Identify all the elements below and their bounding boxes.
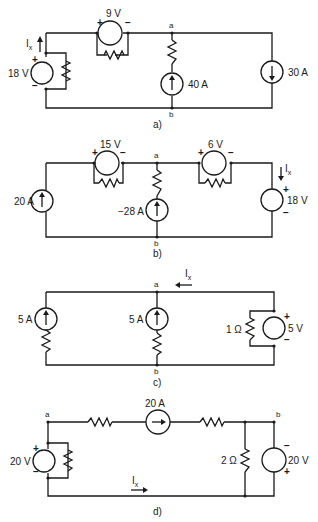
resistor (153, 333, 161, 355)
junction-dot (44, 87, 47, 90)
plus-sign: + (97, 17, 103, 28)
label-5v: 5 V (288, 323, 303, 334)
junction-dot (46, 441, 49, 444)
plus-sign: + (198, 147, 204, 158)
voltage-source-20v-right (262, 448, 286, 472)
circuit-c: 5 A a b 5 A Ix + − 5 V 1 Ω c) (18, 268, 303, 388)
arrowhead-icon (143, 487, 148, 493)
caption-b: b) (153, 248, 162, 259)
label-ix: Ix (185, 268, 192, 281)
node-a-label: a (169, 21, 174, 30)
plus-sign: + (283, 184, 289, 195)
minus-sign: − (284, 334, 290, 345)
node-b-label: b (154, 239, 159, 248)
label-9v: 9 V (106, 8, 121, 19)
label-6v: 6 V (208, 139, 223, 150)
junction-dot (46, 476, 49, 479)
junction-dot (126, 31, 129, 34)
label-20a: 20 A (14, 196, 34, 207)
plus-sign: + (284, 466, 290, 477)
arrowhead-icon (37, 36, 43, 42)
resistor (241, 449, 249, 472)
plus-sign: + (33, 443, 39, 454)
minus-sign: − (32, 80, 38, 91)
circuit-b: 20 A + − 15 V a b −28 A + − 6 V + − 18 (14, 139, 308, 259)
node-a-label: a (154, 280, 159, 289)
junction-dot (92, 161, 95, 164)
node-b-label: b (169, 110, 174, 119)
resistor (42, 330, 50, 352)
node-a-label: a (45, 410, 50, 419)
label-neg28a: −28 A (118, 206, 144, 217)
label-ix: Ix (26, 38, 33, 51)
arrowhead-icon (175, 282, 180, 288)
label-18v: 18 V (287, 195, 308, 206)
voltage-source-18v (261, 189, 283, 211)
resistor (153, 170, 161, 196)
junction-dot (229, 161, 232, 164)
junction-dot (272, 309, 275, 312)
label-1ohm: 1 Ω (226, 324, 242, 335)
label-40a: 40 A (188, 79, 208, 90)
resistor (200, 418, 224, 426)
minus-sign: − (33, 466, 39, 477)
junction-dot (95, 31, 98, 34)
minus-sign: − (120, 147, 126, 158)
circuit-figure: + − 18 V Ix + − 9 V a b 40 A 30 A a) (0, 0, 318, 522)
voltage-source-15v (95, 151, 119, 175)
label-20a: 20 A (145, 398, 165, 409)
junction-dot (243, 494, 246, 497)
minus-sign: − (283, 207, 289, 218)
label-18v: 18 V (8, 68, 29, 79)
label-5a-middle: 5 A (129, 314, 144, 325)
junction-dot (44, 51, 47, 54)
circuit-a: + − 18 V Ix + − 9 V a b 40 A 30 A a) (8, 8, 308, 130)
voltage-source-5v (263, 317, 285, 339)
plus-sign: + (92, 147, 98, 158)
label-20v-left: 20 V (10, 456, 31, 467)
label-ix: Ix (285, 163, 292, 176)
caption-d: d) (153, 506, 162, 517)
junction-dot (197, 161, 200, 164)
resistor (168, 40, 176, 64)
resistor (246, 318, 254, 340)
resistor (99, 179, 119, 187)
voltage-source-6v (202, 151, 226, 175)
label-5a-left: 5 A (18, 314, 33, 325)
label-15v: 15 V (100, 139, 121, 150)
node-a-dot (46, 420, 49, 423)
node-a-label: a (154, 151, 159, 160)
plus-sign: + (32, 54, 38, 65)
circuit-d: a + − 20 V 20 A 2 Ω b − + 20 V Ix d) (10, 398, 309, 517)
plus-sign: + (284, 311, 290, 322)
junction-dot (121, 161, 124, 164)
node-b-dot (272, 420, 275, 423)
node-b-label: b (276, 410, 281, 419)
node-a-dot (155, 161, 158, 164)
arrowhead-icon (278, 176, 284, 181)
node-a-dot (155, 290, 158, 293)
caption-a: a) (153, 119, 162, 130)
label-2ohm: 2 Ω (221, 455, 237, 466)
caption-c: c) (153, 377, 161, 388)
label-20v-right: 20 V (288, 455, 309, 466)
label-ix: Ix (132, 475, 139, 488)
resistor (88, 418, 112, 426)
wire (46, 33, 272, 108)
node-a-dot (170, 31, 173, 34)
junction-dot (243, 420, 246, 423)
minus-sign: − (284, 440, 290, 451)
resistor (205, 179, 225, 187)
minus-sign: − (228, 147, 234, 158)
junction-dot (272, 344, 275, 347)
node-b-label: b (154, 367, 159, 376)
label-30a: 30 A (288, 67, 308, 78)
minus-sign: − (125, 17, 131, 28)
